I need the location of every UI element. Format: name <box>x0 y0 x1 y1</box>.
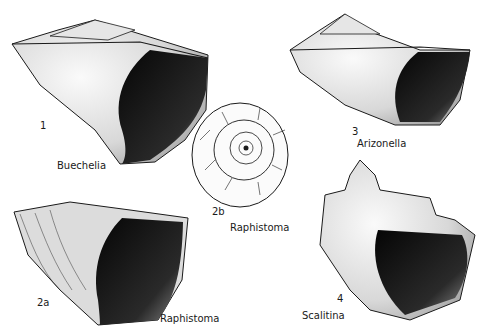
shell-buechelia <box>12 20 208 164</box>
genus-label-raphistoma-2a: Raphistoma <box>160 313 219 324</box>
figure-number-2a: 2a <box>37 297 50 308</box>
figure-number-1: 1 <box>40 120 46 131</box>
shell-arizonella <box>290 14 470 125</box>
shell-raphistoma-top <box>192 103 288 207</box>
figure-number-3: 3 <box>352 126 358 137</box>
figure-number-4: 4 <box>337 293 343 304</box>
genus-label-scalitina: Scalitina <box>302 310 345 321</box>
genus-label-buechelia: Buechelia <box>57 160 106 171</box>
figure-number-2b: 2b <box>212 206 225 217</box>
genus-label-arizonella: Arizonella <box>357 138 406 149</box>
genus-label-raphistoma-2b: Raphistoma <box>230 222 289 233</box>
